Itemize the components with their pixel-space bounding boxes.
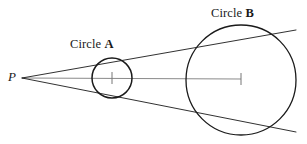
figure-background [0, 0, 307, 144]
circle-b-label-name: B [245, 6, 253, 20]
circle-a-label: Circle A [70, 38, 114, 51]
point-p-text: P [8, 69, 16, 84]
circle-a-label-prefix: Circle [70, 37, 104, 51]
point-p-label: P [8, 70, 16, 83]
circle-b-label-prefix: Circle [211, 6, 245, 20]
geometry-figure: P Circle A Circle B [0, 0, 307, 144]
figure-canvas [0, 0, 307, 144]
circle-a-label-name: A [104, 37, 113, 51]
circle-b-label: Circle B [211, 7, 254, 20]
